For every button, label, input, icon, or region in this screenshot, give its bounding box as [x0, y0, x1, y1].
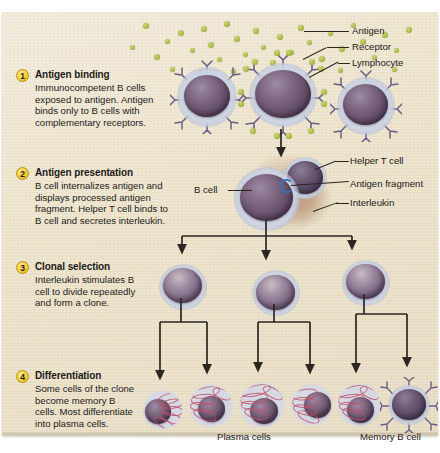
step-2-body: B cell internalizes antigen and displays… — [16, 180, 176, 226]
leader-line-b-cell — [228, 190, 252, 191]
step-4-body: Some cells of the clone become memory B … — [16, 383, 136, 429]
step-1: 1 Antigen binding Immunocompetent B cell… — [16, 69, 176, 128]
label-b-cell: B cell — [194, 184, 217, 195]
step-4-badge: 4 — [16, 370, 29, 383]
leader-line-lymphocyte-2 — [338, 63, 350, 64]
step-3-badge: 3 — [16, 261, 29, 274]
step-3-title: Clonal selection — [35, 261, 110, 272]
label-memory-b-cell: Memory B cell — [360, 431, 421, 442]
step-2-title: Antigen presentation — [35, 167, 133, 178]
step-2-badge: 2 — [16, 167, 29, 180]
step-1-badge: 1 — [16, 69, 29, 82]
step-4: 4 Differentiation Some cells of the clon… — [16, 370, 136, 429]
label-interleukin: Interleukin — [350, 197, 394, 208]
leader-line-interleukin-2 — [336, 203, 349, 204]
label-lymphocyte: Lymphocyte — [352, 57, 403, 68]
label-helper-t-cell: Helper T cell — [350, 155, 404, 166]
label-plasma-cells: Plasma cells — [217, 431, 271, 442]
leader-line-helper-t-2 — [335, 161, 349, 162]
step-1-header: 1 Antigen binding — [16, 69, 176, 81]
step-1-title: Antigen binding — [35, 69, 110, 80]
label-receptor: Receptor — [352, 41, 391, 52]
leader-line-receptor-2 — [327, 47, 349, 48]
step-3-body: Interleukin stimulates B cell to divide … — [16, 274, 136, 309]
figure-canvas: 1 Antigen binding Immunocompetent B cell… — [0, 0, 440, 453]
step-4-title: Differentiation — [35, 370, 101, 381]
diagram-panel: 1 Antigen binding Immunocompetent B cell… — [2, 12, 438, 435]
leader-line-antigen — [304, 31, 349, 32]
label-antigen: Antigen — [352, 25, 385, 36]
step-3-header: 3 Clonal selection — [16, 261, 136, 273]
label-antigen-fragment: Antigen fragment — [350, 178, 423, 189]
step-4-header: 4 Differentiation — [16, 370, 136, 382]
step-1-body: Immunocompetent B cells exposed to antig… — [16, 82, 176, 128]
step-2: 2 Antigen presentation B cell internaliz… — [16, 167, 176, 226]
step-2-header: 2 Antigen presentation — [16, 167, 176, 179]
step-3: 3 Clonal selection Interleukin stimulate… — [16, 261, 136, 309]
